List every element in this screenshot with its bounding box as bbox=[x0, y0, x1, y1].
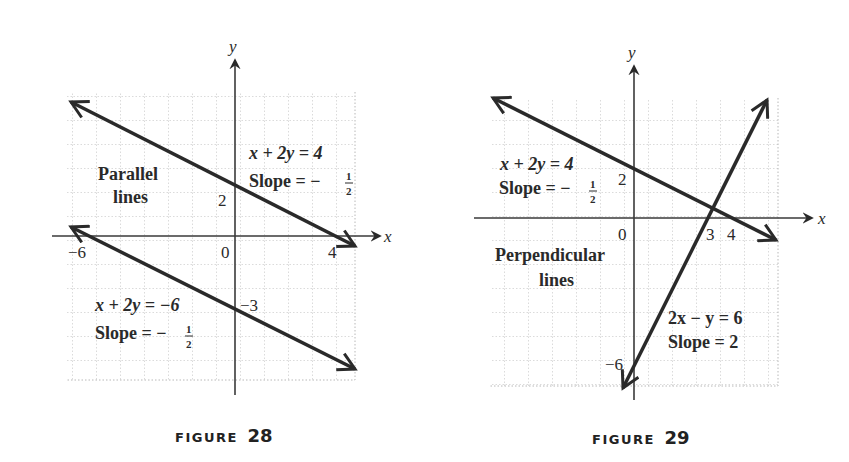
slope-den-2: 2 bbox=[186, 338, 192, 350]
figure-title-line2: lines bbox=[539, 270, 574, 290]
tick-y-neg3: −3 bbox=[240, 296, 258, 315]
tick-x-0: 0 bbox=[221, 243, 230, 262]
tick-x-0: 0 bbox=[618, 225, 627, 244]
figure-title-line1: Perpendicular bbox=[495, 245, 605, 265]
slope-num-1: 1 bbox=[590, 178, 596, 190]
equation-label-1: x + 2y = 4 bbox=[499, 154, 574, 174]
tick-x-4: 4 bbox=[727, 225, 736, 244]
tick-y-2: 2 bbox=[218, 191, 227, 210]
tick-x-3: 3 bbox=[706, 225, 715, 244]
y-axis-label: y bbox=[227, 37, 237, 56]
tick-x-neg6: −6 bbox=[68, 243, 86, 262]
tick-x-4: 4 bbox=[328, 243, 337, 262]
equation-label-2: x + 2y = −6 bbox=[94, 295, 179, 315]
figure-28: x y −6 0 4 2 −3 Parallel lines x + 2y = … bbox=[52, 37, 392, 446]
figure-caption: FIGURE 28 bbox=[175, 425, 272, 446]
slope-den-1: 2 bbox=[590, 193, 596, 205]
figure-caption: FIGURE 29 bbox=[592, 427, 689, 448]
x-axis-label: x bbox=[817, 209, 826, 228]
x-axis-label: x bbox=[383, 227, 392, 246]
equation-label-2: 2x − y = 6 bbox=[668, 308, 743, 328]
slope-num-1: 1 bbox=[346, 170, 352, 182]
y-axis-label: y bbox=[626, 43, 636, 62]
slope-label-2: Slope = − bbox=[95, 323, 167, 343]
figure-title-line1: Parallel bbox=[98, 164, 158, 184]
tick-y-2: 2 bbox=[618, 170, 627, 189]
slope-label-1: Slope = − bbox=[499, 178, 571, 198]
figure-title-line2: lines bbox=[113, 187, 148, 207]
tick-y-neg6: −6 bbox=[605, 355, 623, 374]
slope-label-2: Slope = 2 bbox=[668, 332, 738, 352]
figure-29: x y 0 3 4 2 −6 Perpendicular lines x + 2… bbox=[474, 43, 826, 448]
equation-label-1: x + 2y = 4 bbox=[248, 143, 323, 163]
slope-num-2: 1 bbox=[186, 323, 192, 335]
slope-den-1: 2 bbox=[346, 185, 352, 197]
figures-canvas: x y −6 0 4 2 −3 Parallel lines x + 2y = … bbox=[0, 0, 849, 462]
slope-label-1: Slope = − bbox=[249, 171, 321, 191]
